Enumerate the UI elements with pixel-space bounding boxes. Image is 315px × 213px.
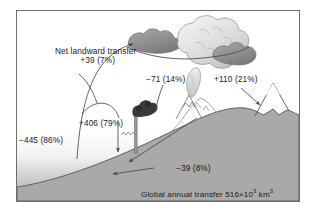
figure-frame: Net landward transfer +39 (7%) −71 (14%)… bbox=[16, 10, 300, 202]
label-land-precipitation: +110 (21%) bbox=[214, 75, 258, 84]
label-ocean-evaporation: −445 (86%) bbox=[19, 136, 63, 145]
label-ocean-precipitation: +406 (79%) bbox=[79, 119, 123, 128]
arc-ocean-precipitation bbox=[82, 103, 119, 118]
label-land-evaporation: −71 (14%) bbox=[146, 75, 185, 84]
arrow-subsurface-flow bbox=[113, 168, 154, 174]
pointer-land-evaporation bbox=[156, 85, 163, 109]
total-unit-exponent: 3 bbox=[270, 188, 273, 194]
total-unit: km bbox=[256, 190, 269, 199]
label-net-landward-value: +39 (7%) bbox=[55, 56, 136, 65]
flow-arrows bbox=[17, 11, 299, 201]
label-global-annual-transfer: Global annual transfer 516×103 km3 bbox=[141, 191, 273, 200]
arrow-land-precipitation bbox=[241, 88, 260, 105]
label-runoff: −39 (8%) bbox=[176, 164, 211, 173]
label-net-landward-transfer: Net landward transfer +39 (7%) bbox=[55, 47, 136, 65]
arrow-runoff bbox=[129, 118, 197, 162]
total-prefix: Global annual transfer 516×10 bbox=[141, 190, 253, 199]
hydrological-cycle-figure: Net landward transfer +39 (7%) −71 (14%)… bbox=[0, 0, 315, 213]
